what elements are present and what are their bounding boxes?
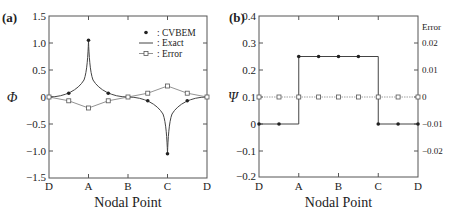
svg-text:−0.02: −0.02: [422, 146, 443, 156]
chart-b: (b) 0.4 0.3 0.2 0.1 0 −0.1 −0.2 Error 0.…: [228, 10, 443, 210]
svg-text:0.3: 0.3: [242, 37, 256, 49]
svg-text:D: D: [45, 180, 53, 192]
error-axis-label: Error: [422, 22, 441, 32]
x-axis-label-b: Nodal Point: [305, 195, 372, 210]
svg-text:C: C: [164, 180, 171, 192]
legend-error-marker: [144, 52, 148, 56]
svg-text:0: 0: [422, 92, 427, 102]
exact-line-b: [259, 57, 418, 125]
svg-text:D: D: [203, 180, 211, 192]
error-markers-a: [47, 84, 209, 110]
svg-text:D: D: [255, 180, 263, 192]
svg-text:1.5: 1.5: [32, 10, 46, 22]
y-axis-label-b: Ψ: [228, 90, 239, 105]
svg-text:: CVBEM: : CVBEM: [157, 28, 196, 38]
svg-text:0.02: 0.02: [422, 38, 438, 48]
svg-text:A: A: [85, 180, 93, 192]
svg-text:0.1: 0.1: [242, 91, 256, 103]
cvbem-markers-b: [257, 55, 420, 126]
svg-text:0.01: 0.01: [422, 65, 438, 75]
svg-text:0.4: 0.4: [242, 10, 256, 22]
y-tick-labels-a: 1.5 1.0 0.5 0 −0.5 −1.0 −1.5: [26, 10, 46, 183]
svg-text:−0.01: −0.01: [422, 119, 443, 129]
svg-text:0.2: 0.2: [242, 64, 256, 76]
svg-text:0: 0: [41, 91, 47, 103]
svg-text:A: A: [295, 180, 303, 192]
svg-text:: Error: : Error: [157, 49, 183, 59]
y-axis-label-a: Φ: [7, 90, 18, 105]
legend-cvbem-marker: [144, 31, 148, 35]
svg-text:C: C: [375, 180, 382, 192]
svg-text:1.0: 1.0: [32, 37, 46, 49]
svg-text:B: B: [124, 180, 131, 192]
svg-text:−1.5: −1.5: [26, 171, 46, 183]
figure: (a) 1.5 1.0 0.5 0 −0.5 −1.0 −1.5 D A B C…: [0, 0, 457, 214]
y2-tick-labels-b: Error 0.02 0.01 0 −0.01 −0.02: [422, 22, 443, 156]
error-markers-b: [257, 95, 420, 99]
svg-text:−0.1: −0.1: [236, 145, 256, 157]
panel-a-label: (a): [2, 10, 17, 25]
chart-a: (a) 1.5 1.0 0.5 0 −0.5 −1.0 −1.5 D A B C…: [2, 10, 211, 210]
legend-a: : CVBEM : Exact : Error: [139, 28, 196, 59]
svg-text:−0.2: −0.2: [236, 170, 256, 182]
svg-text:0: 0: [251, 118, 257, 130]
svg-text:0.5: 0.5: [32, 64, 46, 76]
x-tick-labels-b: D A B C D: [255, 180, 422, 192]
x-tick-labels-a: D A B C D: [45, 180, 211, 192]
svg-text:D: D: [414, 180, 422, 192]
svg-text:B: B: [335, 180, 342, 192]
y-tick-labels-b: 0.4 0.3 0.2 0.1 0 −0.1 −0.2: [236, 10, 256, 182]
x-axis-label-a: Nodal Point: [94, 195, 161, 210]
svg-text:: Exact: : Exact: [157, 38, 184, 48]
svg-text:−0.5: −0.5: [26, 118, 46, 130]
svg-text:−1.0: −1.0: [26, 145, 46, 157]
